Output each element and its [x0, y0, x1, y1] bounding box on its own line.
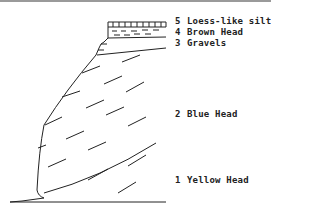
gravels-layer	[96, 38, 166, 55]
layer-number: 1	[175, 175, 187, 185]
layer-label-3: 3Gravels	[175, 38, 226, 48]
layer-name: Loess-like silts	[187, 16, 271, 26]
layer-name: Yellow Head	[187, 175, 249, 185]
layer-boundary	[44, 143, 156, 193]
layer-label-5: 5Loess-like silts	[175, 16, 271, 26]
layer-number: 3	[175, 38, 187, 48]
layer-name: Blue Head	[187, 109, 238, 119]
layer-label-4: 4Brown Head	[175, 27, 243, 37]
layer-name: Brown Head	[187, 27, 243, 37]
head-dashes	[38, 55, 146, 193]
brown-head-layer	[108, 30, 166, 38]
layer-label-1: 1Yellow Head	[175, 175, 249, 185]
layer-label-2: 2Blue Head	[175, 109, 238, 119]
layer-number: 4	[175, 27, 187, 37]
layer-number: 5	[175, 16, 187, 26]
layer-number: 2	[175, 109, 187, 119]
layer-name: Gravels	[187, 38, 226, 48]
